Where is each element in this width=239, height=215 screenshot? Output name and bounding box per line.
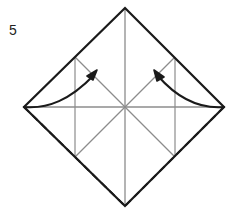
dashed-fold-lines-group (24, 107, 224, 206)
fold-arrow-left-head (87, 70, 97, 80)
fold-arrow-left-curve (24, 75, 94, 107)
fold-arrow-right-head (154, 70, 164, 81)
fold-arrow-right-curve (158, 76, 224, 107)
origami-diagram-figure: 5 (0, 0, 239, 215)
origami-diagram-canvas (0, 0, 239, 215)
construction-lines-group (24, 8, 224, 206)
